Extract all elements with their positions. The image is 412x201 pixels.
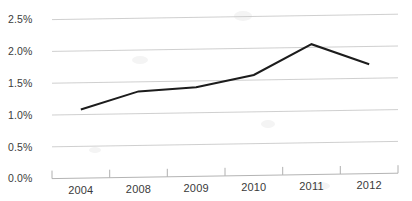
- x-label-2012: 2012: [357, 179, 382, 191]
- gridline-2-5: [52, 14, 398, 19]
- chart-canvas: 2.5% 2.0% 1.5% 1.0% 0.5% 0.0% 2004 2008 …: [0, 0, 412, 201]
- scan-artifacts: [89, 11, 330, 190]
- y-label-2-5: 2.5%: [8, 13, 32, 25]
- x-label-2008: 2008: [126, 183, 151, 195]
- y-label-0-0: 0.0%: [8, 172, 32, 184]
- x-label-2004: 2004: [68, 184, 93, 196]
- y-axis-labels: 2.5% 2.0% 1.5% 1.0% 0.5% 0.0%: [8, 13, 32, 184]
- y-label-1-0: 1.0%: [8, 109, 32, 121]
- x-tickmarks: [52, 165, 398, 178]
- y-label-0-5: 0.5%: [8, 141, 32, 153]
- x-axis-labels: 2004 2008 2009 2010 2011 2012: [68, 179, 382, 196]
- data-series-line: [81, 44, 369, 109]
- y-label-1-5: 1.5%: [8, 77, 32, 89]
- x-label-2010: 2010: [241, 181, 266, 193]
- gridline-2-0: [52, 46, 398, 51]
- gridlines: [52, 14, 398, 178]
- line-chart: 2.5% 2.0% 1.5% 1.0% 0.5% 0.0% 2004 2008 …: [0, 0, 412, 201]
- gridline-1-0: [52, 110, 398, 115]
- y-label-2-0: 2.0%: [8, 45, 32, 57]
- x-label-2011: 2011: [299, 180, 323, 192]
- x-label-2009: 2009: [184, 182, 209, 194]
- gridline-0-5: [52, 141, 398, 146]
